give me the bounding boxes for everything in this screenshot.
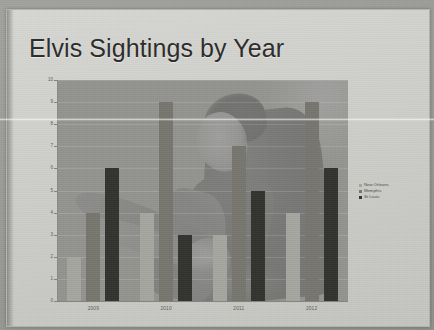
y-axis-tick-label: 3 xyxy=(35,232,53,237)
bar xyxy=(140,213,154,301)
legend-item-label: Memphis xyxy=(364,189,381,193)
y-axis-tick-label: 8 xyxy=(35,122,53,127)
legend-swatch-icon xyxy=(359,190,362,193)
legend-swatch-icon xyxy=(359,196,362,199)
y-axis-line xyxy=(57,80,58,301)
y-axis-tick-label: 6 xyxy=(35,166,53,171)
y-axis-tick-label: 4 xyxy=(35,210,53,215)
y-axis-tick-mark xyxy=(54,257,57,258)
y-axis-tick-mark xyxy=(54,301,57,302)
bar-chart: 012345678910 2009201020112012 New Orlean… xyxy=(29,73,407,313)
bar-group xyxy=(140,80,192,301)
slide-binding-shadow xyxy=(7,10,14,326)
legend-item-label: New Orleans xyxy=(364,183,389,187)
y-axis-tick-mark xyxy=(54,168,57,169)
bar xyxy=(178,235,192,301)
chart-legend: New OrleansMemphisSt Louis xyxy=(359,183,405,201)
bar-group xyxy=(67,80,119,301)
y-axis-tick-label: 10 xyxy=(35,78,53,83)
y-axis-tick-mark xyxy=(54,235,57,236)
x-axis-tick-label: 2010 xyxy=(139,306,193,311)
x-axis-tick-label: 2009 xyxy=(66,306,120,311)
y-axis-tick-mark xyxy=(54,279,57,280)
y-axis-tick-mark xyxy=(54,191,57,192)
bar xyxy=(305,102,319,301)
page-title: Elvis Sightings by Year xyxy=(29,34,284,63)
bar xyxy=(213,235,227,301)
bar xyxy=(105,168,119,301)
legend-item-label: St Louis xyxy=(364,195,380,199)
photographed-slide-scene: Elvis Sightings by Year xyxy=(0,0,434,330)
y-axis-tick-label: 7 xyxy=(35,144,53,149)
y-axis-tick-label: 5 xyxy=(35,188,53,193)
bar-group xyxy=(286,80,338,301)
y-axis-tick-mark xyxy=(54,146,57,147)
legend-item: St Louis xyxy=(359,195,405,200)
legend-swatch-icon xyxy=(359,184,362,187)
bar xyxy=(86,213,100,301)
y-axis-tick-mark xyxy=(54,102,57,103)
x-axis-tick-label: 2011 xyxy=(212,306,266,311)
chart-plot-area xyxy=(57,80,348,301)
y-axis-tick-mark xyxy=(54,124,57,125)
x-axis-tick-label: 2012 xyxy=(285,306,339,311)
y-axis-tick-label: 1 xyxy=(35,277,53,282)
bar-group xyxy=(213,80,265,301)
bar xyxy=(251,191,265,302)
y-axis-tick-mark xyxy=(54,80,57,81)
bar xyxy=(232,146,246,301)
x-axis-line xyxy=(57,301,348,302)
bar xyxy=(324,168,338,301)
y-axis-tick-label: 0 xyxy=(35,299,53,304)
presentation-slide: Elvis Sightings by Year xyxy=(6,9,430,327)
bar xyxy=(286,213,300,301)
y-axis-tick-mark xyxy=(54,213,57,214)
bar xyxy=(159,102,173,301)
y-axis-tick-label: 2 xyxy=(35,255,53,260)
legend-item: New Orleans xyxy=(359,183,405,188)
bar xyxy=(67,257,81,301)
y-axis-tick-label: 9 xyxy=(35,100,53,105)
legend-item: Memphis xyxy=(359,189,405,194)
